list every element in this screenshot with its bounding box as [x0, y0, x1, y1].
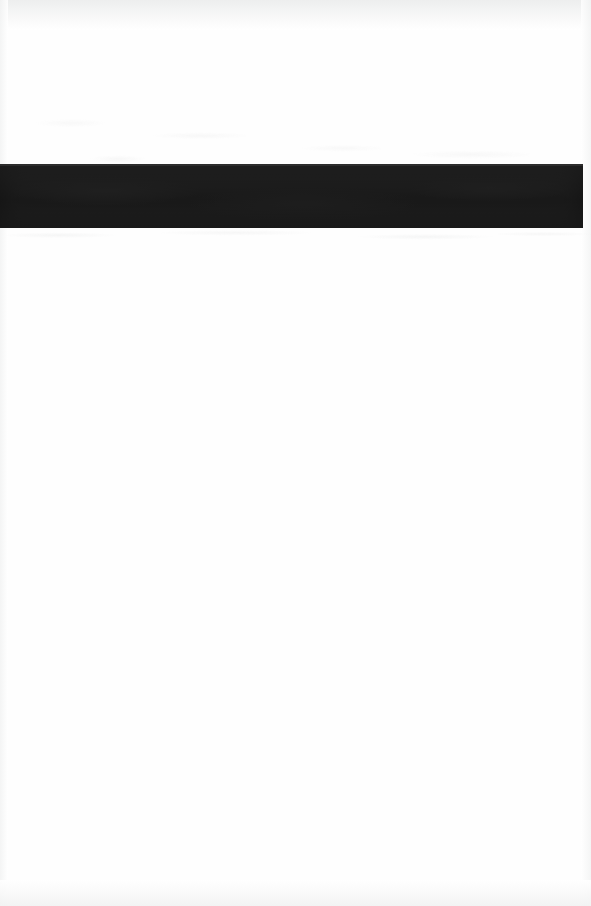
upper-blank-label — [0, 0, 1, 1]
redaction-bar-seam — [0, 164, 583, 166]
lower-blank-label — [0, 228, 1, 229]
scanned-document-page — [0, 0, 591, 906]
page-number — [0, 228, 1, 229]
upper-blank-area — [0, 0, 591, 164]
page-body-text — [0, 228, 1, 229]
page-body-blank-area — [0, 228, 591, 906]
redaction-bar — [0, 164, 583, 228]
